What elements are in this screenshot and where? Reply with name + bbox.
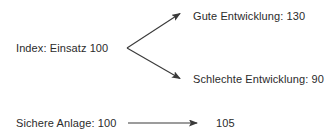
arrow-to-bad-line — [127, 48, 180, 79]
node-label-index-start: Index: Einsatz 100 — [16, 42, 108, 55]
node-label-outcome-bad: Schlechte Entwicklung: 90 — [193, 73, 324, 86]
node-label-safe-start: Sichere Anlage: 100 — [16, 117, 116, 130]
arrow-to-good-line — [127, 14, 180, 49]
node-label-safe-outcome: 105 — [216, 117, 235, 130]
diagram-canvas: Index: Einsatz 100 Gute Entwicklung: 130… — [0, 0, 335, 140]
node-label-outcome-good: Gute Entwicklung: 130 — [193, 10, 305, 23]
